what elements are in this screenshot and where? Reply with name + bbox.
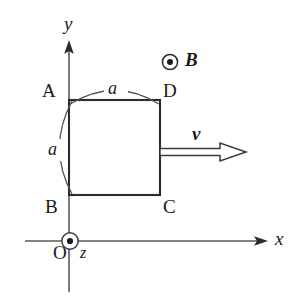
y-axis-label: y <box>64 14 72 33</box>
velocity-arrow <box>160 143 246 161</box>
z-axis-label: z <box>80 245 86 261</box>
loop-rectangle <box>69 100 160 195</box>
physics-diagram-figure: A D C B a a B v x y z O <box>0 0 297 306</box>
vertex-label-C: C <box>163 197 176 216</box>
origin-label: O <box>53 243 67 262</box>
square-loop-path <box>69 100 160 195</box>
vertex-label-B: B <box>45 197 58 216</box>
vertex-label-D: D <box>163 81 177 100</box>
diagram-canvas <box>0 0 297 306</box>
magnetic-field-out-of-page-icon <box>162 54 177 69</box>
velocity-label: v <box>192 124 200 143</box>
vertex-label-A: A <box>42 81 56 100</box>
x-axis-label: x <box>275 229 283 248</box>
dimension-label-left-a: a <box>48 140 57 158</box>
dimension-label-top-a: a <box>108 79 117 97</box>
magnetic-field-label: B <box>185 50 198 69</box>
